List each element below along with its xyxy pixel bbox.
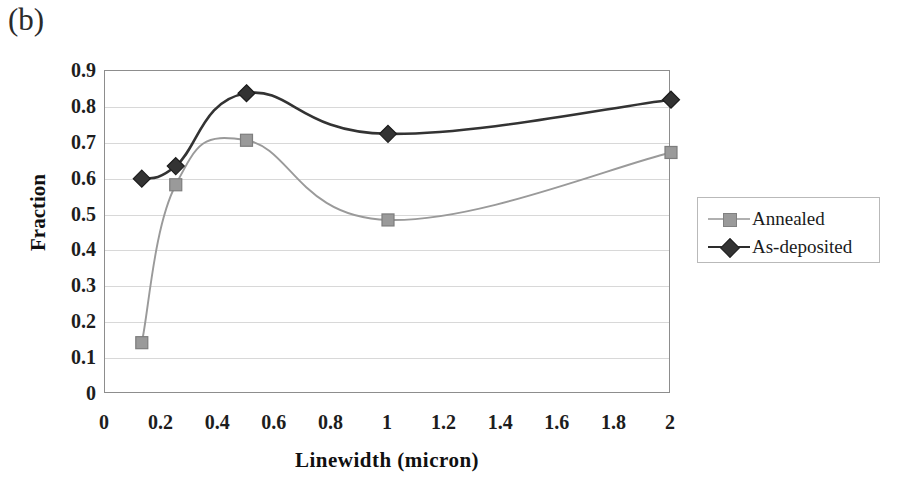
y-tick-label: 0.2 (40, 311, 96, 331)
y-tick-label: 0.7 (40, 132, 96, 152)
x-axis-title: Linewidth (micron) (104, 448, 670, 473)
legend-item-as-deposited[interactable]: As-deposited (706, 233, 879, 261)
x-tick-label: 1.6 (527, 412, 587, 432)
diamond-marker (380, 125, 397, 142)
square-marker (382, 214, 394, 226)
diamond-marker-icon (706, 238, 752, 256)
x-tick-label: 0.4 (187, 412, 247, 432)
y-tick-label: 0.8 (40, 96, 96, 116)
x-tick-label: 0.2 (131, 412, 191, 432)
series-layer (105, 71, 671, 394)
plot-area (104, 70, 670, 393)
y-tick-label: 0.1 (40, 347, 96, 367)
y-tick-label: 0 (40, 383, 96, 403)
x-tick-label: 1 (357, 412, 417, 432)
y-axis-title: Fraction (26, 153, 51, 273)
chart-legend: Annealed As-deposited (697, 197, 880, 263)
square-marker (241, 134, 253, 146)
legend-label: As-deposited (752, 236, 852, 258)
x-tick-label: 1.4 (470, 412, 530, 432)
x-tick-label: 0.6 (244, 412, 304, 432)
legend-label: Annealed (752, 208, 825, 230)
square-marker (170, 179, 182, 191)
x-tick-label: 0.8 (300, 412, 360, 432)
diamond-marker (663, 91, 680, 108)
x-tick-label: 1.8 (583, 412, 643, 432)
y-tick-label: 0.3 (40, 275, 96, 295)
y-tick-label: 0.9 (40, 60, 96, 80)
square-marker (136, 337, 148, 349)
legend-item-annealed[interactable]: Annealed (706, 205, 879, 233)
x-tick-label: 0 (74, 412, 134, 432)
x-axis-ticks: 00.20.40.60.811.21.41.61.82 (0, 412, 898, 440)
series-annealed (136, 134, 677, 348)
chart-figure: 00.10.20.30.40.50.60.70.80.9 00.20.40.60… (0, 0, 898, 483)
x-tick-label: 2 (640, 412, 700, 432)
diamond-marker (238, 85, 255, 102)
series-as-deposited (133, 85, 679, 187)
square-marker-icon (706, 210, 752, 228)
square-marker (665, 146, 677, 158)
series-line (142, 93, 671, 179)
x-tick-label: 1.2 (414, 412, 474, 432)
series-line (142, 138, 671, 343)
diamond-marker (133, 170, 150, 187)
